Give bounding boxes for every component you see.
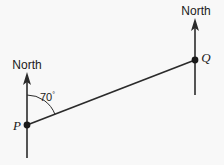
point-label-q: Q xyxy=(201,50,211,65)
point-marker-q xyxy=(192,57,199,64)
bearing-diagram: North North P Q 70° xyxy=(0,0,224,165)
bearing-diagram-canvas: North North P Q 70° xyxy=(0,0,224,165)
point-marker-p xyxy=(24,122,31,129)
point-label-p: P xyxy=(12,118,21,133)
north-label-right: North xyxy=(181,4,210,18)
north-label-left: North xyxy=(12,58,41,72)
angle-label-70-degrees: 70° xyxy=(40,91,55,103)
angle-label-value: 70 xyxy=(40,91,52,103)
angle-label-degree-symbol: ° xyxy=(52,91,55,98)
